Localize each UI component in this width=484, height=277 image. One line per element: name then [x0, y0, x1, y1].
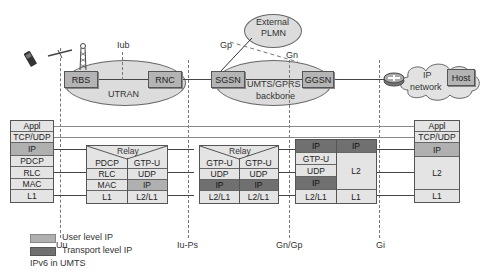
ggsn-left-ip-top: IP	[296, 140, 336, 153]
sgsn-protocol-stack: Relay GTP-U UDP IP L2/L1 GTP-U UDP IP L2…	[199, 145, 279, 204]
sgsn-divider	[239, 158, 240, 203]
router-icon	[383, 71, 405, 87]
peer-line-l1-2	[166, 195, 194, 196]
gn-label: Gn	[286, 50, 298, 60]
peer-line-mid-4	[374, 172, 414, 173]
sgsn-left-ip: IP	[200, 180, 239, 191]
peer-line-l1	[52, 195, 86, 196]
ggsn-left-udp: UDP	[296, 165, 336, 177]
peer-line-l1-4	[374, 195, 414, 196]
mobile-phone-icon	[24, 50, 40, 68]
rnc-left-mac: MAC	[87, 180, 127, 191]
rnc-divider	[127, 158, 128, 203]
ue-layer-ip: IP	[11, 143, 53, 156]
ggsn-left-ip: IP	[296, 177, 336, 190]
sgsn-left-gtp-u: GTP-U	[200, 158, 239, 169]
ue-layer-l1: L1	[11, 190, 53, 202]
legend-label-user-ip: User level IP	[62, 232, 113, 242]
sgsn-node: SGSN	[211, 71, 245, 88]
ue-layer-mac: MAC	[11, 179, 53, 190]
ip-network-label-1: IP	[423, 70, 432, 80]
legend-label-transport-ip: Transport level IP	[62, 245, 132, 255]
sgsn-left-udp: UDP	[200, 169, 239, 180]
rbs-node: RBS	[64, 71, 98, 88]
ggsn-node: GGSN	[302, 71, 334, 88]
host-layer-ip: IP	[415, 143, 459, 157]
host-layer-l1: L1	[415, 190, 459, 202]
peer-line-ip-2	[166, 149, 194, 150]
radio-link-icon	[46, 42, 76, 72]
rnc-right-gtp-u: GTP-U	[127, 158, 167, 169]
rnc-left-l1: L1	[87, 191, 127, 203]
ggsn-divider	[336, 140, 337, 203]
rnc-relay-label: Relay	[117, 146, 139, 156]
ggsn-right-ip: IP	[336, 140, 376, 153]
rnc-node: RNC	[148, 71, 182, 88]
host-layer-tcp-udp: TCP/UDP	[415, 132, 459, 143]
ue-layer-appl: Appl	[11, 121, 53, 132]
host-layer-appl: Appl	[415, 121, 459, 132]
legend-swatch-user-ip	[30, 234, 56, 243]
interface-label-iu-ps: Iu-Ps	[177, 240, 198, 250]
peer-line-ip	[52, 149, 86, 150]
sgsn-relay-label: Relay	[229, 146, 251, 156]
ggsn-left-gtp-u: GTP-U	[296, 153, 336, 165]
rnc-protocol-stack: Relay PDCP RLC MAC L1 GTP-U UDP IP L2/L1	[86, 145, 168, 204]
legend-swatch-transport-ip	[30, 247, 56, 256]
peer-line-ip-4	[374, 149, 414, 150]
antenna-tower-icon	[78, 42, 88, 72]
sgsn-left-l2-l1: L2/L1	[200, 191, 239, 203]
sgsn-right-gtp-u: GTP-U	[239, 158, 278, 169]
ue-protocol-stack: Appl TCP/UDP IP PDCP RLC MAC L1	[10, 120, 54, 203]
ggsn-protocol-stack: IP GTP-U UDP IP L2/L1 IP L2 L1	[295, 139, 377, 204]
peer-line-appl	[52, 126, 414, 127]
uu-divider	[60, 48, 61, 238]
figure-caption: IPv6 in UMTS	[30, 258, 86, 268]
link-ggsn-router	[328, 79, 384, 80]
sgsn-right-udp: UDP	[239, 169, 278, 180]
iub-divider	[122, 52, 123, 80]
ue-layer-tcp-udp: TCP/UDP	[11, 132, 53, 143]
ggsn-left-l2-l1: L2/L1	[296, 190, 336, 203]
ue-layer-pdcp: PDCP	[11, 156, 53, 167]
peer-line-tcp	[52, 137, 414, 138]
iub-label: Iub	[117, 40, 130, 50]
peer-line-mid	[52, 172, 86, 173]
sgsn-right-ip: IP	[239, 180, 278, 191]
ggsn-right-l1: L1	[336, 190, 376, 203]
ue-layer-rlc: RLC	[11, 167, 53, 179]
peer-line-mid-2	[166, 172, 194, 173]
host-layer-l2: L2	[415, 157, 459, 190]
ip-network-label-2: network	[410, 82, 442, 92]
utran-label: UTRAN	[108, 89, 139, 99]
rnc-right-ip: IP	[127, 180, 167, 191]
interface-label-gn-gp: Gn/Gp	[276, 240, 303, 250]
rnc-left-pdcp: PDCP	[87, 158, 127, 169]
host-protocol-stack: Appl TCP/UDP IP L2 L1	[414, 120, 460, 203]
rnc-left-rlc: RLC	[87, 169, 127, 180]
rnc-right-l2-l1: L2/L1	[127, 191, 167, 203]
sgsn-right-l2-l1: L2/L1	[239, 191, 278, 203]
gp-label: Gp	[220, 40, 232, 50]
host-node: Host	[447, 69, 475, 86]
interface-label-gi: Gi	[376, 240, 385, 250]
ggsn-right-l2: L2	[336, 153, 376, 190]
rnc-right-udp: UDP	[127, 169, 167, 180]
